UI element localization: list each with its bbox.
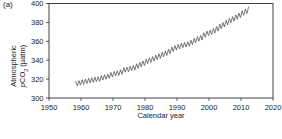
x-tick-label: 1960 <box>73 103 90 112</box>
x-axis-title: Calendar year <box>49 112 273 120</box>
x-tick-label: 2010 <box>233 103 250 112</box>
y-tick-label: 300 <box>31 94 44 103</box>
figure-panel: (a) Atmospheric pCO2 (µatm) 195019601970… <box>0 0 282 139</box>
x-tick-label: 2000 <box>201 103 218 112</box>
x-tick-label: 2020 <box>265 103 282 112</box>
y-tick-label: 340 <box>31 56 44 65</box>
y-tick-label: 400 <box>31 0 44 8</box>
plot-border <box>49 4 273 99</box>
x-tick-label: 1970 <box>105 103 122 112</box>
y-tick-label: 360 <box>31 37 44 46</box>
x-tick-label: 1950 <box>41 103 58 112</box>
y-tick-label: 380 <box>31 18 44 27</box>
co2-curve <box>76 7 249 86</box>
y-tick-label: 320 <box>31 75 44 84</box>
